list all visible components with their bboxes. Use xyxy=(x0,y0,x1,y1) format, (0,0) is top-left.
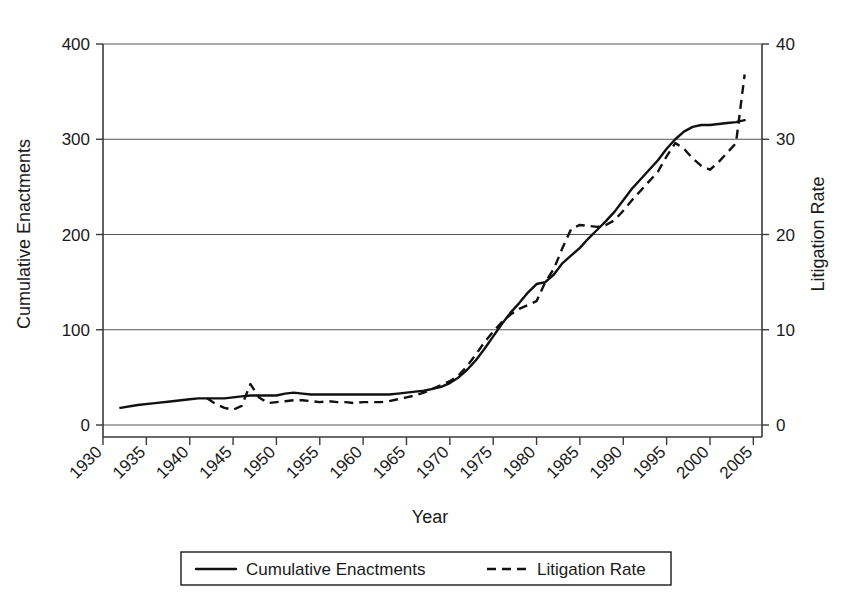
legend-label-litigation-rate: Litigation Rate xyxy=(537,560,646,579)
left-axis-title: Cumulative Enactments xyxy=(14,139,34,329)
legend-label-cumulative-enactments: Cumulative Enactments xyxy=(246,560,426,579)
left-tick-label-100: 100 xyxy=(62,321,90,340)
right-axis-title: Litigation Rate xyxy=(808,176,828,291)
chart-legend: Cumulative Enactments Litigation Rate xyxy=(181,552,671,585)
line-chart: 1930193519401945195019551960196519701975… xyxy=(0,0,850,602)
left-tick-label-200: 200 xyxy=(62,226,90,245)
right-tick-label-40: 40 xyxy=(776,35,795,54)
left-tick-label-300: 300 xyxy=(62,130,90,149)
right-tick-label-10: 10 xyxy=(776,321,795,340)
x-axis-title: Year xyxy=(412,507,448,527)
right-tick-label-0: 0 xyxy=(776,416,785,435)
left-tick-label-400: 400 xyxy=(62,35,90,54)
chart-figure: 1930193519401945195019551960196519701975… xyxy=(0,0,850,602)
right-tick-label-20: 20 xyxy=(776,226,795,245)
left-tick-label-0: 0 xyxy=(81,416,90,435)
right-tick-label-30: 30 xyxy=(776,130,795,149)
